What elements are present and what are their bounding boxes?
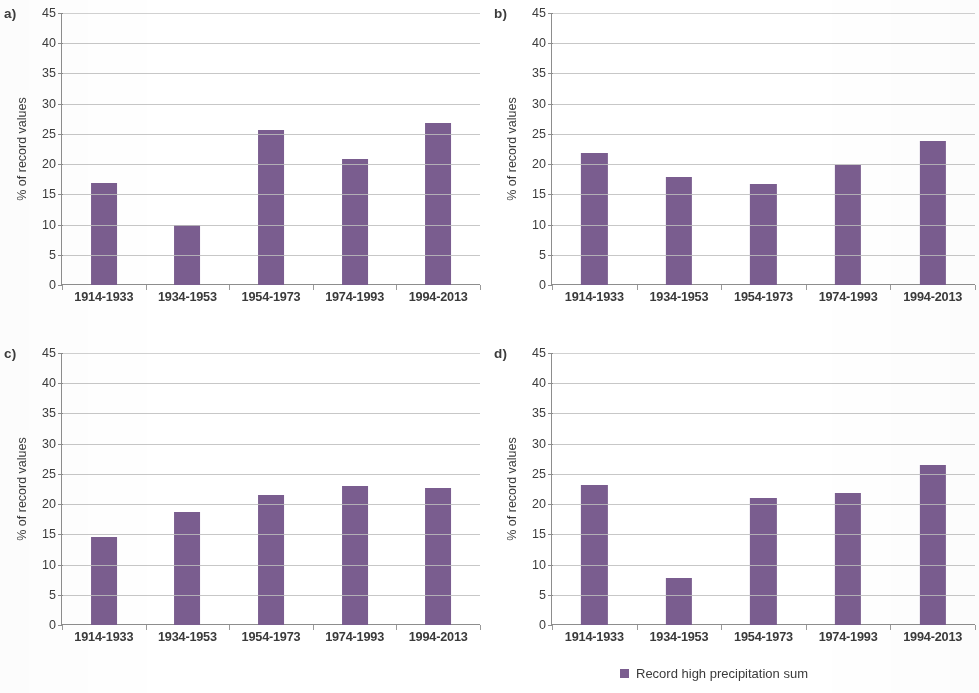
bar — [750, 184, 776, 285]
bar-slot — [396, 13, 480, 285]
y-tick-label: 20 — [42, 498, 56, 511]
bar — [258, 495, 284, 625]
y-tick-label: 15 — [42, 188, 56, 201]
y-tick-label: 10 — [532, 558, 546, 571]
y-axis-title-a: % of record values — [12, 10, 32, 288]
y-tick-label: 20 — [532, 158, 546, 171]
y-tickmark — [58, 383, 63, 384]
y-tick-label: 35 — [42, 67, 56, 80]
bar-slot — [146, 13, 230, 285]
y-tickmark — [548, 444, 553, 445]
y-tick-label: 5 — [539, 589, 546, 602]
y-tick-label: 30 — [532, 97, 546, 110]
y-tick-label: 15 — [532, 188, 546, 201]
y-axis-title-c: % of record values — [12, 350, 32, 628]
y-axis-ticks-d: 051015202530354045 — [520, 340, 546, 626]
x-axis-label: 1934-1953 — [649, 290, 708, 304]
bar — [342, 486, 368, 625]
y-tickmark — [58, 474, 63, 475]
y-tick-label: 5 — [49, 249, 56, 262]
gridline — [552, 225, 975, 226]
y-tickmark — [58, 43, 63, 44]
y-tick-label: 40 — [532, 377, 546, 390]
y-tick-label: 10 — [42, 558, 56, 571]
y-tick-label: 0 — [49, 279, 56, 292]
x-axis-label: 1974-1993 — [325, 290, 384, 304]
gridline — [552, 43, 975, 44]
y-tick-label: 30 — [42, 437, 56, 450]
y-tick-label: 30 — [532, 437, 546, 450]
bar-slot — [806, 353, 891, 625]
y-tickmark — [548, 104, 553, 105]
x-axis-label: 1994-2013 — [903, 630, 962, 644]
y-tick-label: 15 — [42, 528, 56, 541]
y-tickmark — [58, 504, 63, 505]
bar-series-d — [552, 353, 975, 625]
legend-swatch-icon — [620, 669, 629, 678]
gridline — [552, 565, 975, 566]
y-tickmark — [548, 13, 553, 14]
bar-slot — [890, 353, 975, 625]
bar-series-a — [62, 13, 480, 285]
y-tick-label: 20 — [42, 158, 56, 171]
y-tickmark — [58, 565, 63, 566]
plot-area-d — [552, 353, 975, 625]
x-axis-label: 1914-1933 — [74, 630, 133, 644]
bar-slot — [229, 353, 313, 625]
y-tick-label: 40 — [42, 377, 56, 390]
y-tick-label: 5 — [539, 249, 546, 262]
bar — [581, 485, 607, 625]
y-tickmark — [548, 413, 553, 414]
x-axis-labels-d: 1914-19331934-19531954-19731974-19931994… — [552, 630, 975, 650]
bar-slot — [146, 353, 230, 625]
chart-panel-b: b) % of record values 051015202530354045… — [490, 0, 979, 330]
x-axis-label: 1914-1933 — [74, 290, 133, 304]
bar-slot — [637, 353, 722, 625]
bar-series-c — [62, 353, 480, 625]
bar-slot — [637, 13, 722, 285]
x-axis-labels-c: 1914-19331934-19531954-19731974-19931994… — [62, 630, 480, 650]
bar — [425, 488, 451, 625]
y-tick-label: 30 — [42, 97, 56, 110]
gridline — [62, 444, 480, 445]
y-tickmark — [58, 413, 63, 414]
x-axis-labels-b: 1914-19331934-19531954-19731974-19931994… — [552, 290, 975, 310]
bar — [835, 493, 861, 625]
bar — [258, 130, 284, 285]
y-tickmark — [548, 595, 553, 596]
plot-area-a — [62, 13, 480, 285]
y-tick-label: 40 — [532, 37, 546, 50]
y-tickmark — [548, 565, 553, 566]
y-tickmark — [548, 353, 553, 354]
y-tickmark — [548, 194, 553, 195]
bar-slot — [313, 13, 397, 285]
gridline — [62, 474, 480, 475]
plot-area-b — [552, 13, 975, 285]
gridline — [552, 413, 975, 414]
chart-panel-d: d) % of record values 051015202530354045… — [490, 340, 979, 693]
gridline — [552, 13, 975, 14]
bar — [425, 123, 451, 285]
y-tick-label: 25 — [532, 128, 546, 141]
y-tickmark — [58, 595, 63, 596]
y-tickmark — [58, 73, 63, 74]
y-tick-label: 35 — [532, 407, 546, 420]
y-tick-label: 0 — [539, 619, 546, 632]
bar-slot — [313, 353, 397, 625]
bar-slot — [552, 13, 637, 285]
bar — [581, 153, 607, 285]
y-tick-label: 25 — [42, 128, 56, 141]
y-tick-label: 20 — [532, 498, 546, 511]
y-tick-label: 45 — [42, 347, 56, 360]
bar — [666, 578, 692, 625]
y-tickmark — [58, 534, 63, 535]
y-tickmark — [58, 134, 63, 135]
y-tick-label: 35 — [42, 407, 56, 420]
x-tickmark — [480, 625, 481, 630]
bar-slot — [806, 13, 891, 285]
y-tickmark — [548, 134, 553, 135]
gridline — [62, 225, 480, 226]
x-axis-labels-a: 1914-19331934-19531954-19731974-19931994… — [62, 290, 480, 310]
y-tickmark — [548, 534, 553, 535]
gridline — [552, 534, 975, 535]
